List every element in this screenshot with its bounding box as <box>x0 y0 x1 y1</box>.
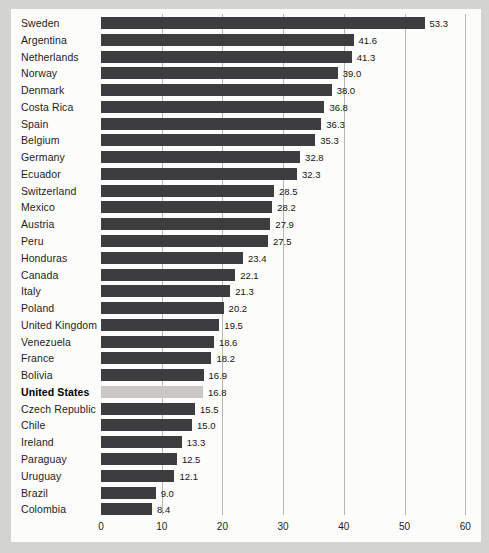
value-label: 12.1 <box>179 470 198 481</box>
bar <box>101 503 152 515</box>
bar <box>101 403 195 415</box>
value-label: 19.5 <box>224 319 243 330</box>
page-background: { "chart_data": { "type": "bar", "orient… <box>0 0 489 553</box>
country-label: Venezuela <box>21 336 71 348</box>
bar <box>101 218 270 230</box>
value-label: 20.2 <box>229 303 248 314</box>
value-label: 32.8 <box>305 152 324 163</box>
value-label: 21.3 <box>235 286 254 297</box>
chart-row: Czech Republic15.5 <box>11 403 481 415</box>
chart-row: Chile15.0 <box>11 419 481 431</box>
x-axis-tick-label: 10 <box>156 521 167 532</box>
value-label: 16.8 <box>208 386 227 397</box>
bar <box>101 336 214 348</box>
country-label: Sweden <box>21 17 60 29</box>
chart-row: United States16.8 <box>11 386 481 398</box>
x-axis-tick-label: 60 <box>460 521 471 532</box>
country-label: Ireland <box>21 436 54 448</box>
country-label: United Kingdom <box>21 319 97 331</box>
value-label: 15.5 <box>200 403 219 414</box>
chart-row: Venezuela18.6 <box>11 336 481 348</box>
x-axis-tick-label: 0 <box>98 521 104 532</box>
value-label: 53.3 <box>430 18 449 29</box>
x-axis-tick-label: 30 <box>278 521 289 532</box>
value-label: 15.0 <box>197 420 216 431</box>
chart-row: Italy21.3 <box>11 285 481 297</box>
value-label: 27.5 <box>273 236 292 247</box>
x-axis-tick-label: 40 <box>338 521 349 532</box>
chart-row: Sweden53.3 <box>11 17 481 29</box>
country-label: Italy <box>21 285 41 297</box>
country-label: Poland <box>21 302 54 314</box>
country-label: France <box>21 352 54 364</box>
bar <box>101 302 224 314</box>
country-label: Bolivia <box>21 369 53 381</box>
chart-row: Germany32.8 <box>11 151 481 163</box>
value-label: 16.9 <box>209 370 228 381</box>
chart-row: Poland20.2 <box>11 302 481 314</box>
value-label: 38.0 <box>337 85 356 96</box>
country-label: Brazil <box>21 487 48 499</box>
country-label: Germany <box>21 151 65 163</box>
value-label: 35.3 <box>320 135 339 146</box>
country-label: Austria <box>21 218 54 230</box>
country-label: Peru <box>21 235 44 247</box>
country-label: Colombia <box>21 503 66 515</box>
chart-row: Brazil9.0 <box>11 487 481 499</box>
bar <box>101 51 352 63</box>
bar <box>101 168 297 180</box>
country-label: Switzerland <box>21 185 76 197</box>
country-label: Honduras <box>21 252 67 264</box>
chart-row: Colombia8.4 <box>11 503 481 515</box>
bar <box>101 252 243 264</box>
chart-row: Paraguay12.5 <box>11 453 481 465</box>
chart-row: Norway39.0 <box>11 67 481 79</box>
value-label: 27.9 <box>275 219 294 230</box>
bar <box>101 118 321 130</box>
bar <box>101 34 354 46</box>
bar-highlighted <box>101 386 203 398</box>
bar <box>101 17 425 29</box>
bar <box>101 419 192 431</box>
bar <box>101 487 156 499</box>
chart-row: Ireland13.3 <box>11 436 481 448</box>
chart-row: Ecuador32.3 <box>11 168 481 180</box>
country-label: Czech Republic <box>21 403 96 415</box>
bar <box>101 235 268 247</box>
bar <box>101 319 219 331</box>
value-label: 36.3 <box>326 118 345 129</box>
chart-row: Belgium35.3 <box>11 134 481 146</box>
value-label: 18.6 <box>219 336 238 347</box>
bar <box>101 285 230 297</box>
chart-row: Argentina41.6 <box>11 34 481 46</box>
bar <box>101 436 182 448</box>
chart-panel: Sweden53.3Argentina41.6Netherlands41.3No… <box>11 9 481 542</box>
country-label: Ecuador <box>21 168 61 180</box>
value-label: 32.3 <box>302 168 321 179</box>
chart-row: Bolivia16.9 <box>11 369 481 381</box>
bar <box>101 201 272 213</box>
country-label: Chile <box>21 419 45 431</box>
chart-row: Costa Rica36.8 <box>11 101 481 113</box>
chart-row: United Kingdom19.5 <box>11 319 481 331</box>
country-label: Costa Rica <box>21 101 73 113</box>
value-label: 8.4 <box>157 504 170 515</box>
value-label: 41.3 <box>357 51 376 62</box>
country-label: Spain <box>21 118 48 130</box>
chart-row: Denmark38.0 <box>11 84 481 96</box>
country-label: Uruguay <box>21 470 61 482</box>
value-label: 18.2 <box>216 353 235 364</box>
chart-row: Spain36.3 <box>11 118 481 130</box>
bar <box>101 101 324 113</box>
value-label: 22.1 <box>240 269 259 280</box>
country-label: Norway <box>21 67 57 79</box>
country-label: Denmark <box>21 84 64 96</box>
chart-row: Mexico28.2 <box>11 201 481 213</box>
chart-row: Peru27.5 <box>11 235 481 247</box>
country-label: Mexico <box>21 201 55 213</box>
bar <box>101 185 274 197</box>
country-label: Paraguay <box>21 453 67 465</box>
bar <box>101 369 204 381</box>
x-axis-tick-label: 20 <box>217 521 228 532</box>
chart-row: Austria27.9 <box>11 218 481 230</box>
